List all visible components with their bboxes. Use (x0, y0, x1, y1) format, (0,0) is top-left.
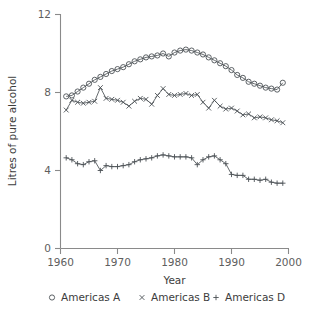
legend-item-americas-b[interactable]: Americas B (140, 291, 211, 303)
x-tick-label-1970: 1970 (104, 256, 131, 268)
x-axis-title: Year (162, 274, 186, 286)
legend-item-americas-a[interactable]: Americas A (49, 291, 121, 303)
x-tick-label-1980: 1980 (161, 256, 188, 268)
line-chart: 12 8 4 0 1960 1970 1980 1990 2000 Year L… (0, 0, 311, 315)
y-axis-title: Litres of pure alcohol (6, 76, 18, 186)
legend-label: Americas A (61, 291, 121, 303)
chart-container: 12 8 4 0 1960 1970 1980 1990 2000 Year L… (0, 0, 311, 315)
legend-label: Americas B (151, 291, 210, 303)
x-tick-label-2000: 2000 (275, 256, 302, 268)
y-tick-label-0: 0 (44, 242, 51, 254)
legend-label: Americas D (225, 291, 285, 303)
x-tick-label-1990: 1990 (218, 256, 245, 268)
legend-item-americas-d[interactable]: Americas D (213, 291, 285, 303)
y-tick-label-12: 12 (38, 8, 51, 20)
y-tick-label-4: 4 (44, 164, 51, 176)
chart-legend: Americas AAmericas BAmericas D (49, 291, 285, 303)
y-tick-label-8: 8 (44, 86, 51, 98)
x-tick-label-1960: 1960 (47, 256, 74, 268)
